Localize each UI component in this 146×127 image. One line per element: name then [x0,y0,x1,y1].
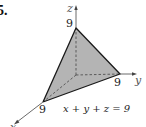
y-intercept-label: 9 [114,76,121,89]
triangle-face [43,28,120,102]
z-intercept-label: 9 [66,17,73,30]
z-axis-arrow-icon [74,5,77,10]
plane-diagram: 5. z y x 9 9 9 x + y + z = 9 [0,0,146,127]
x-axis-label: x [10,121,17,127]
problem-number: 5. [0,3,8,18]
plane-equation: x + y + z = 9 [63,103,131,114]
z-axis-label: z [66,2,73,15]
y-axis-label: y [134,74,142,87]
x-intercept-label: 9 [39,103,46,116]
